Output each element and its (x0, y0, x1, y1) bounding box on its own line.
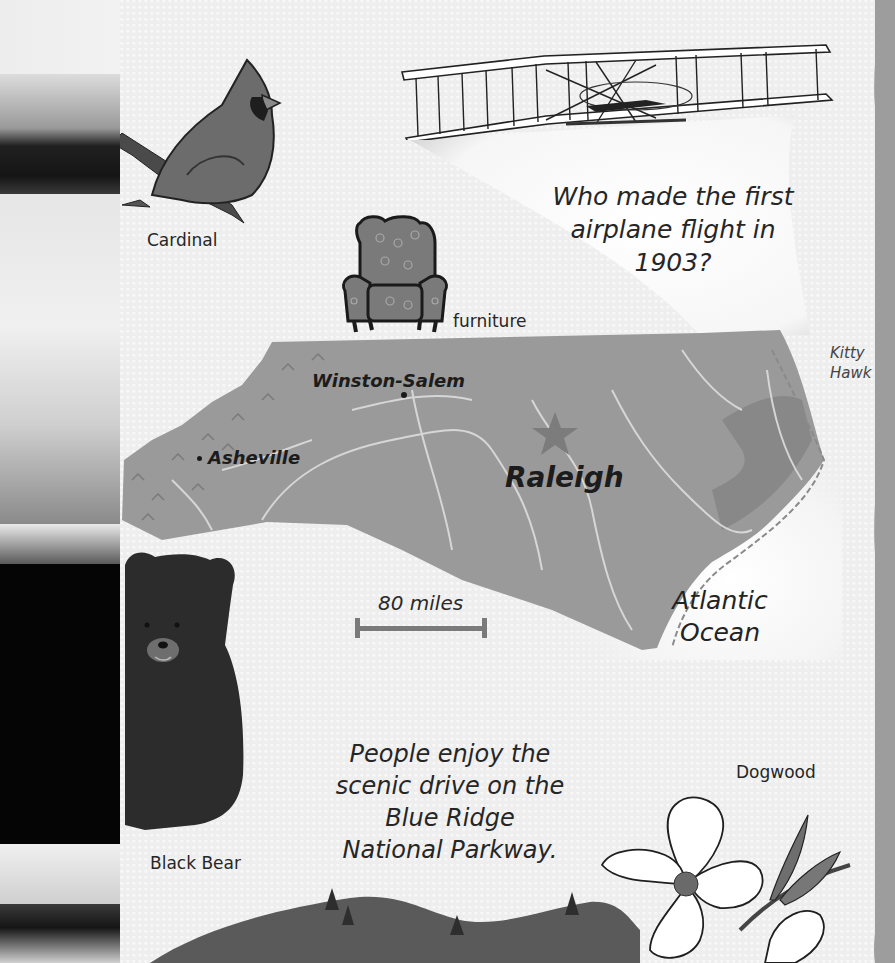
scale-label: 80 miles (378, 591, 463, 615)
asheville-dot (197, 456, 202, 461)
cardinal-illustration (112, 55, 292, 225)
winston-salem-dot (401, 392, 407, 398)
question-line-3: 1903? (548, 246, 798, 279)
blur-strip (0, 564, 120, 844)
city-label-asheville: Asheville (208, 447, 300, 468)
blur-strip (0, 74, 120, 194)
question-line-2: airplane flight in (548, 213, 798, 246)
left-edge-blurred-band (0, 0, 120, 963)
armchair-furniture-illustration (340, 213, 450, 333)
cardinal-caption: Cardinal (147, 230, 217, 250)
city-label-winston-salem: Winston-Salem (312, 370, 465, 391)
torn-page-edge (875, 0, 895, 963)
blur-strip (0, 524, 120, 564)
map-page: Who made the first airplane flight in 19… (0, 0, 895, 963)
city-label-raleigh: Raleigh (505, 461, 624, 494)
dogwood-flower-illustration (590, 790, 860, 963)
furniture-caption: furniture (453, 311, 526, 331)
blue-ridge-parkway-text: People enjoy the scenic drive on the Blu… (320, 738, 580, 866)
airplane-question: Who made the first airplane flight in 19… (548, 180, 798, 279)
scale-bar (355, 618, 487, 638)
black-bear-illustration (115, 545, 250, 835)
question-line-1: Who made the first (548, 180, 798, 213)
capital-star-icon (530, 410, 580, 458)
blur-strip (0, 194, 120, 524)
dogwood-caption: Dogwood (736, 762, 816, 782)
blur-strip (0, 0, 120, 74)
atlantic-ocean-label: Atlantic Ocean (665, 585, 775, 649)
blur-strip (0, 904, 120, 963)
black-bear-caption: Black Bear (150, 853, 241, 873)
kitty-hawk-label: Kitty Hawk (830, 343, 871, 383)
blue-ridge-mountains-illustration (120, 880, 640, 963)
blur-strip (0, 844, 120, 904)
wright-flyer-airplane-illustration (396, 40, 836, 140)
